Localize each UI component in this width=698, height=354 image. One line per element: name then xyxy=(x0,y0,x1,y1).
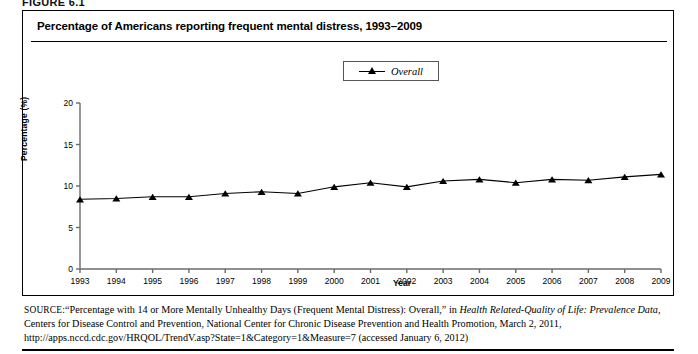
x-tick-label: 2004 xyxy=(470,276,489,286)
plot-area: Percentage (%) Year 05101520199319941995… xyxy=(23,11,675,295)
source-note: SOURCE:“Percentage with 14 or More Menta… xyxy=(24,303,674,344)
source-prefix: SOURCE: xyxy=(24,305,65,315)
x-tick-label: 2008 xyxy=(615,276,634,286)
source-publication-title: Health Related-Quality of Life: Prevalen… xyxy=(459,304,660,315)
x-tick-label: 2006 xyxy=(543,276,562,286)
figure-box: Percentage of Americans reporting freque… xyxy=(22,10,674,296)
x-tick-label: 2000 xyxy=(325,276,344,286)
x-tick-label: 1999 xyxy=(288,276,307,286)
y-tick-label: 5 xyxy=(68,223,73,233)
line-chart-svg: 0510152019931994199519961997199819992000… xyxy=(23,11,675,295)
x-tick-label: 2009 xyxy=(652,276,671,286)
x-tick-label: 1998 xyxy=(252,276,271,286)
x-tick-label: 1997 xyxy=(216,276,235,286)
bottom-divider xyxy=(22,349,674,351)
x-tick-label: 1996 xyxy=(179,276,198,286)
source-text-part-2: Centers for Disease Control and Preventi… xyxy=(24,318,561,342)
y-tick-label: 15 xyxy=(64,140,74,150)
source-text-part-1: “Percentage with 14 or More Mentally Unh… xyxy=(65,304,459,315)
x-tick-label: 1995 xyxy=(143,276,162,286)
y-axis-title: Percentage (%) xyxy=(19,97,29,161)
y-tick-label: 10 xyxy=(64,181,74,191)
figure-label: FIGURE 6.1 xyxy=(22,0,85,8)
x-tick-label: 2003 xyxy=(434,276,453,286)
y-tick-label: 20 xyxy=(64,98,74,108)
figure-page: FIGURE 6.1 Percentage of Americans repor… xyxy=(0,0,698,354)
x-axis-title: Year xyxy=(393,278,411,288)
x-tick-label: 2005 xyxy=(506,276,525,286)
x-tick-label: 2001 xyxy=(361,276,380,286)
x-tick-label: 1994 xyxy=(107,276,126,286)
y-tick-label: 0 xyxy=(68,264,73,274)
x-tick-label: 1993 xyxy=(71,276,90,286)
x-tick-label: 2007 xyxy=(579,276,598,286)
series-line-overall xyxy=(80,174,661,199)
